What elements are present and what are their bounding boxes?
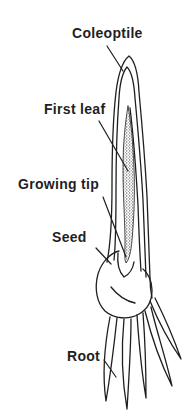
- seed-outline: [96, 251, 152, 318]
- label-seed: Seed: [52, 230, 87, 244]
- line-art-group: [96, 46, 181, 409]
- root-3: [137, 313, 146, 398]
- label-first-leaf: First leaf: [44, 102, 105, 116]
- label-root: Root: [67, 349, 100, 363]
- seed-crease: [111, 287, 135, 303]
- root-2: [122, 319, 131, 409]
- label-growing-tip: Growing tip: [18, 177, 99, 191]
- seedling-diagram: Coleoptile First leaf Growing tip Seed R…: [0, 0, 183, 415]
- leader-line-coleoptile: [107, 46, 123, 71]
- label-coleoptile: Coleoptile: [72, 26, 143, 40]
- root-1: [104, 317, 117, 401]
